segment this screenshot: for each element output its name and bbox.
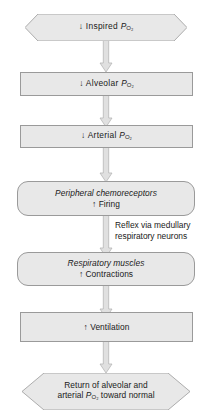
connector-arrow-3 <box>99 146 113 184</box>
node-respiratory-muscles-line1: Respiratory muscles <box>68 258 145 269</box>
node-return-to-normal: Return of alveolar and arterial PO₂ towa… <box>22 373 190 410</box>
node-return-to-normal-line2: arterial PO₂ toward normal <box>57 390 154 403</box>
node-inspired-po2-text: ↓ Inspired PO₂ <box>79 21 134 34</box>
node-inspired-po2: ↓ Inspired PO₂ <box>25 14 187 41</box>
node-respiratory-muscles-line2: ↑ Contractions <box>79 269 133 280</box>
node-return-to-normal-line1: Return of alveolar and <box>64 380 148 391</box>
node-alveolar-po2-text: ↓ Alveolar PO₂ <box>79 78 134 91</box>
node-inspired-po2-prefix: ↓ Inspired <box>79 21 121 31</box>
node-alveolar-po2-prefix: ↓ Alveolar <box>79 78 121 88</box>
flowchart-diagram: ↓ Inspired PO₂ ↓ Alveolar PO₂ ↓ Arterial… <box>0 0 212 416</box>
annotation-reflex-pathway-line2: respiratory neurons <box>115 231 190 242</box>
annotation-reflex-pathway-line1: Reflex via medullary <box>115 220 190 231</box>
node-alveolar-po2-subscript: O₂ <box>127 82 134 88</box>
connector-arrow-6 <box>99 341 113 375</box>
connector-arrow-1 <box>99 38 113 74</box>
connector-arrow-2 <box>99 95 113 129</box>
node-arterial-po2-prefix: ↓ Arterial <box>81 130 119 140</box>
node-inspired-po2-subscript: O₂ <box>126 25 133 31</box>
node-arterial-po2-text: ↓ Arterial PO₂ <box>81 130 132 143</box>
node-ventilation: ↑ Ventilation <box>20 312 193 342</box>
node-return-to-normal-suffix: toward normal <box>98 390 154 400</box>
node-peripheral-chemoreceptors-line1: Peripheral chemoreceptors <box>55 188 157 199</box>
annotation-reflex-pathway: Reflex via medullary respiratory neurons <box>115 220 190 242</box>
node-peripheral-chemoreceptors: Peripheral chemoreceptors ↑ Firing <box>17 181 195 216</box>
node-arterial-po2: ↓ Arterial PO₂ <box>20 125 193 148</box>
node-ventilation-text: ↑ Ventilation <box>84 322 130 333</box>
node-return-to-normal-prefix: arterial <box>57 390 85 400</box>
node-respiratory-muscles: Respiratory muscles ↑ Contractions <box>17 252 195 286</box>
node-alveolar-po2: ↓ Alveolar PO₂ <box>20 72 193 96</box>
node-arterial-po2-subscript: O₂ <box>125 134 132 140</box>
node-peripheral-chemoreceptors-line2: ↑ Firing <box>92 199 120 210</box>
